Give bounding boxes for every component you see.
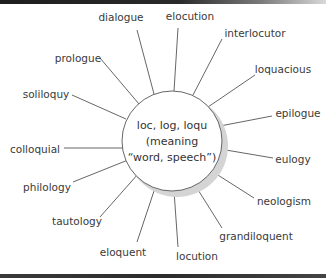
spoke-line-interlocutor	[193, 39, 222, 95]
word-label-locution: locution	[176, 250, 218, 262]
spoke-line-eloquent	[137, 188, 155, 242]
spoke-line-locution	[174, 191, 178, 247]
spoke-line-dialogue	[137, 30, 154, 94]
word-label-tautology: tautology	[52, 215, 102, 227]
spoke-line-soliloquy	[72, 95, 126, 119]
word-label-epilogue: epilogue	[275, 107, 320, 119]
word-label-prologue: prologue	[55, 52, 101, 64]
bottom-border	[0, 274, 326, 278]
spoke-line-prologue	[100, 58, 139, 104]
word-label-colloquial: colloquial	[10, 143, 60, 155]
center-meaning-text: (meaning	[146, 135, 199, 148]
word-label-neologism: neologism	[257, 195, 311, 207]
word-label-soliloquy: soliloquy	[23, 88, 70, 100]
word-web-diagram: loc, log, loqu (meaning “word, speech”) …	[0, 0, 326, 278]
center-root-text: loc, log, loqu	[137, 119, 207, 132]
center-meaning-text-2: “word, speech”)	[128, 151, 217, 164]
spoke-line-philology	[73, 160, 128, 182]
word-label-dialogue: dialogue	[98, 11, 143, 23]
word-label-eulogy: eulogy	[275, 153, 310, 165]
word-label-philology: philology	[23, 181, 71, 193]
spoke-line-tautology	[100, 174, 138, 217]
spoke-line-elocution	[174, 28, 178, 91]
spoke-line-loquacious	[208, 75, 255, 107]
diagram-frame: loc, log, loqu (meaning “word, speech”) …	[0, 0, 326, 278]
word-label-eloquent: eloquent	[100, 246, 146, 258]
spoke-line-epilogue	[220, 116, 272, 126]
word-label-elocution: elocution	[166, 10, 214, 22]
spoke-line-eulogy	[220, 149, 273, 158]
word-label-grandiloquent: grandiloquent	[219, 230, 293, 242]
word-label-loquacious: loquacious	[255, 63, 311, 75]
word-label-interlocutor: interlocutor	[224, 27, 286, 39]
